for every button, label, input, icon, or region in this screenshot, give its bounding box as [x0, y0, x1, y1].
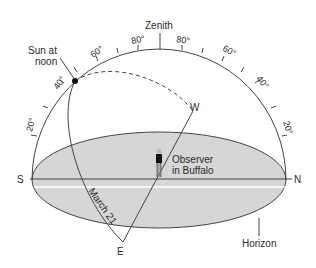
- zenith-label: Zenith: [145, 20, 173, 31]
- celestial-sphere-diagram: Zenith Sun at noon Observer in Buffalo H…: [0, 0, 316, 268]
- angle-right-20: 20°: [281, 120, 295, 136]
- angle-left-60: 60°: [88, 43, 105, 59]
- south-label: S: [17, 174, 24, 185]
- angle-left-20: 20°: [24, 116, 37, 132]
- angle-right-80: 80°: [176, 34, 191, 46]
- west-label: W: [190, 102, 200, 113]
- north-label: N: [294, 174, 301, 185]
- east-label: E: [117, 246, 124, 257]
- angle-left-80: 80°: [130, 33, 146, 46]
- angle-left-40: 40°: [51, 74, 67, 91]
- observer-label-line2: in Buffalo: [172, 165, 214, 176]
- meridian-ticks: [31, 45, 287, 136]
- sun-label-line2: noon: [35, 56, 57, 67]
- horizon-label: Horizon: [242, 238, 276, 249]
- sun-icon: [72, 78, 78, 84]
- sun-path-afternoon: [75, 71, 193, 111]
- angle-right-40: 40°: [254, 74, 271, 91]
- sun-label-line1: Sun at: [28, 45, 57, 56]
- observer-label-line1: Observer: [172, 154, 214, 165]
- horizon-plane: [32, 132, 286, 228]
